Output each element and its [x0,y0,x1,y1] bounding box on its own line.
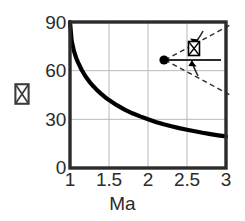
point-source-dot [159,55,168,64]
plot-area [0,0,245,221]
mach-angle-chart: 90 60 30 0 1 1.5 2 2.5 3 Ma [0,0,245,221]
inset-tofu-box-icon [189,42,200,56]
